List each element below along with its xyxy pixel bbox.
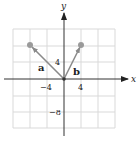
y-axis-label: y <box>60 1 67 11</box>
x-axis-label: x <box>131 74 136 84</box>
tick-label-x-neg4: −4 <box>40 83 52 92</box>
vector-a-label: a <box>38 62 45 73</box>
origin-point <box>62 77 66 81</box>
coordinate-plane: x y −4 4 4 −8 a b <box>0 0 139 141</box>
vector-b-label: b <box>73 66 80 77</box>
tick-label-y-neg8: −8 <box>49 108 61 117</box>
tick-label-y-4: 4 <box>55 58 60 67</box>
vector-b-endpoint <box>78 42 84 48</box>
vector-a-endpoint <box>27 42 33 48</box>
tick-label-x-4: 4 <box>78 83 83 92</box>
